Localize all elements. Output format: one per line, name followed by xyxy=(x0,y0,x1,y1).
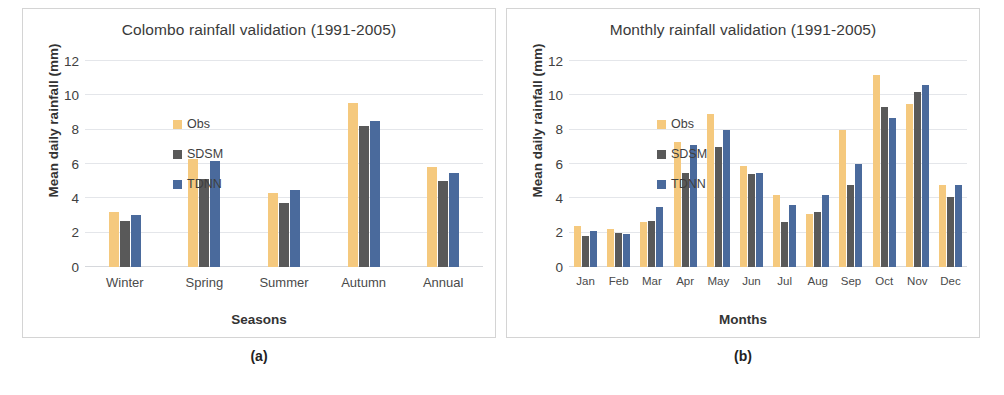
legend-item-tdnn[interactable]: TDNN xyxy=(657,177,707,191)
bar-tdnn-aug xyxy=(822,195,829,267)
x-axis-tick-label: Jul xyxy=(768,275,801,287)
y-axis-tick-label: 4 xyxy=(71,190,79,205)
legend-swatch-icon xyxy=(173,120,182,129)
legend-item-obs[interactable]: Obs xyxy=(173,117,223,131)
bar-obs-autumn xyxy=(348,103,358,267)
x-axis-tick-label: Feb xyxy=(602,275,635,287)
bar-group xyxy=(934,61,967,267)
bar-sdsm-oct xyxy=(881,107,888,267)
x-axis-labels-a: WinterSpringSummerAutumnAnnual xyxy=(85,275,483,290)
bar-group xyxy=(834,61,867,267)
plot-area-b: 024681012 ObsSDSMTDNN xyxy=(569,61,967,267)
plot-area-a: 024681012 ObsSDSMTDNN xyxy=(85,61,483,267)
x-axis-tick-label: Oct xyxy=(868,275,901,287)
panel-caption-a: (a) xyxy=(22,348,496,364)
bar-sdsm-annual xyxy=(438,181,448,267)
bar-sdsm-jun xyxy=(748,174,755,267)
bar-obs-aug xyxy=(806,214,813,267)
bar-obs-mar xyxy=(640,222,647,267)
bar-obs-oct xyxy=(873,75,880,267)
bar-obs-may xyxy=(707,114,714,267)
bar-group xyxy=(324,61,404,267)
bar-obs-annual xyxy=(427,167,437,267)
x-axis-tick-label: Aug xyxy=(801,275,834,287)
bar-tdnn-winter xyxy=(131,215,141,267)
chart-panel-b: Monthly rainfall validation (1991-2005) … xyxy=(506,8,980,338)
bar-group xyxy=(244,61,324,267)
x-axis-title-b: Months xyxy=(507,312,979,327)
bar-group xyxy=(868,61,901,267)
bar-tdnn-nov xyxy=(922,85,929,267)
bar-tdnn-feb xyxy=(623,234,630,267)
bar-sdsm-nov xyxy=(914,92,921,267)
bar-tdnn-annual xyxy=(449,173,459,267)
bar-obs-jan xyxy=(574,226,581,267)
bar-tdnn-summer xyxy=(290,190,300,267)
bar-tdnn-jun xyxy=(756,173,763,267)
y-axis-tick-label: 4 xyxy=(555,190,563,205)
bar-sdsm-autumn xyxy=(359,126,369,267)
bar-group xyxy=(403,61,483,267)
bar-tdnn-dec xyxy=(955,185,962,267)
bar-sdsm-aug xyxy=(814,212,821,267)
bar-sdsm-mar xyxy=(648,221,655,267)
legend-label: Obs xyxy=(671,117,694,131)
panel-caption-b: (b) xyxy=(506,348,980,364)
x-axis-tick-label: Jun xyxy=(735,275,768,287)
x-axis-tick-label: Mar xyxy=(635,275,668,287)
y-axis-tick-label: 0 xyxy=(555,259,563,274)
bar-tdnn-may xyxy=(723,130,730,267)
x-axis-tick-label: Winter xyxy=(85,275,165,290)
bar-sdsm-spring xyxy=(199,179,209,267)
bar-tdnn-jul xyxy=(789,205,796,267)
legend-item-tdnn[interactable]: TDNN xyxy=(173,177,223,191)
bar-obs-nov xyxy=(906,104,913,267)
legend-item-obs[interactable]: Obs xyxy=(657,117,707,131)
figure-sheet: Colombo rainfall validation (1991-2005) … xyxy=(0,0,1004,395)
legend-a: ObsSDSMTDNN xyxy=(173,117,223,191)
y-axis-tick-label: 12 xyxy=(64,53,79,68)
bar-sdsm-feb xyxy=(615,233,622,267)
bar-sdsm-jan xyxy=(582,236,589,267)
bar-group xyxy=(801,61,834,267)
legend-b: ObsSDSMTDNN xyxy=(657,117,707,191)
legend-swatch-icon xyxy=(173,150,182,159)
x-axis-tick-label: Sep xyxy=(834,275,867,287)
bar-group xyxy=(85,61,165,267)
x-axis-tick-label: Summer xyxy=(244,275,324,290)
y-axis-tick-label: 8 xyxy=(555,122,563,137)
bar-group xyxy=(602,61,635,267)
x-axis-labels-b: JanFebMarAprMayJunJulAugSepOctNovDec xyxy=(569,275,967,287)
y-axis-tick-label: 2 xyxy=(71,225,79,240)
bar-tdnn-oct xyxy=(889,118,896,267)
x-axis-tick-label: Jan xyxy=(569,275,602,287)
bar-obs-summer xyxy=(268,193,278,267)
y-axis-tick-label: 0 xyxy=(71,259,79,274)
y-axis-title-b: Mean daily rainfall (mm) xyxy=(530,21,545,221)
legend-swatch-icon xyxy=(657,120,666,129)
x-axis-title-a: Seasons xyxy=(23,312,495,327)
chart-panel-a: Colombo rainfall validation (1991-2005) … xyxy=(22,8,496,338)
bar-sdsm-jul xyxy=(781,222,788,267)
bar-obs-jun xyxy=(740,166,747,267)
x-axis-tick-label: Autumn xyxy=(324,275,404,290)
bar-group xyxy=(569,61,602,267)
bar-obs-dec xyxy=(939,185,946,267)
legend-swatch-icon xyxy=(657,180,666,189)
legend-item-sdsm[interactable]: SDSM xyxy=(173,147,223,161)
bar-tdnn-autumn xyxy=(370,121,380,267)
legend-label: Obs xyxy=(187,117,210,131)
bar-sdsm-winter xyxy=(120,221,130,267)
x-axis-tick-label: Annual xyxy=(403,275,483,290)
bar-obs-winter xyxy=(109,212,119,267)
bar-obs-sep xyxy=(839,130,846,267)
legend-label: TDNN xyxy=(187,177,222,191)
legend-item-sdsm[interactable]: SDSM xyxy=(657,147,707,161)
y-axis-tick-label: 8 xyxy=(71,122,79,137)
y-axis-tick-label: 10 xyxy=(64,87,79,102)
bar-sdsm-sep xyxy=(847,185,854,267)
chart-title-a: Colombo rainfall validation (1991-2005) xyxy=(23,21,495,39)
y-axis-tick-label: 6 xyxy=(555,156,563,171)
bar-group xyxy=(735,61,768,267)
legend-label: TDNN xyxy=(671,177,706,191)
